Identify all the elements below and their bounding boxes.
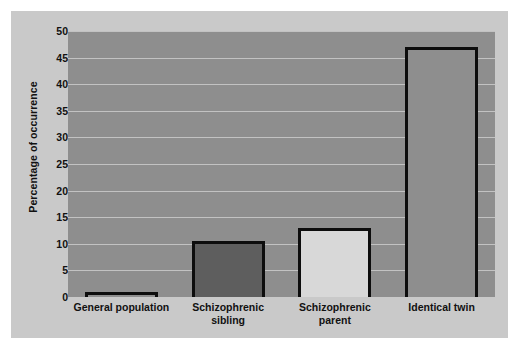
y-tick-label: 35	[16, 105, 68, 117]
x-tick-label: General population	[68, 301, 175, 314]
y-tick-label: 50	[16, 25, 68, 37]
x-tick-label-line: sibling	[175, 314, 282, 327]
bar	[405, 47, 478, 297]
bar	[298, 228, 371, 297]
plot-area	[68, 31, 495, 297]
x-tick-label-line: General population	[68, 301, 175, 314]
x-tick-label: Schizophrenicsibling	[175, 301, 282, 326]
y-tick-label: 45	[16, 52, 68, 64]
x-tick-label-line: parent	[282, 314, 389, 327]
gridline	[68, 31, 495, 32]
x-tick-label-line: Identical twin	[388, 301, 495, 314]
y-tick-label: 15	[16, 211, 68, 223]
y-tick-label: 10	[16, 238, 68, 250]
x-tick-label: Schizophrenicparent	[282, 301, 389, 326]
y-tick-label: 40	[16, 78, 68, 90]
y-tick-label: 25	[16, 158, 68, 170]
x-tick-label-line: Schizophrenic	[175, 301, 282, 314]
y-tick-label: 20	[16, 185, 68, 197]
y-tick-label: 30	[16, 131, 68, 143]
y-tick-label: 0	[16, 291, 68, 303]
chart-figure: Percentage of occurrence 051015202530354…	[11, 11, 508, 338]
x-tick-label: Identical twin	[388, 301, 495, 314]
x-tick-label-line: Schizophrenic	[282, 301, 389, 314]
y-axis-tick-labels: 05101520253035404550	[11, 11, 68, 338]
bar	[192, 241, 265, 297]
bar	[85, 292, 158, 297]
x-axis-tick-labels: General populationSchizophrenicsiblingSc…	[68, 301, 495, 341]
y-tick-label: 5	[16, 264, 68, 276]
